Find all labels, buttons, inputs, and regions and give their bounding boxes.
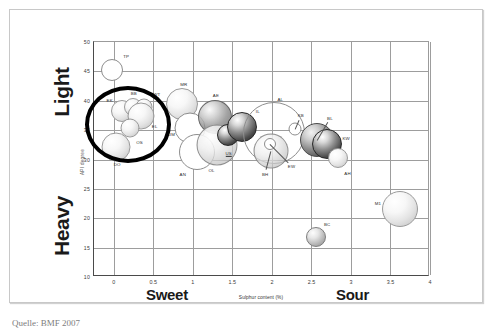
gridline-horizontal bbox=[94, 189, 428, 190]
x-tick-label: 1.5 bbox=[229, 279, 237, 285]
x-tick-label: 1 bbox=[191, 279, 194, 285]
x-tick-label: 2.5 bbox=[308, 279, 316, 285]
data-label-m1: M1 bbox=[375, 201, 381, 206]
data-label-an: AN bbox=[180, 171, 186, 176]
bubble-bc bbox=[306, 227, 326, 247]
gridline-horizontal bbox=[94, 71, 428, 72]
y-tick-label: 50 bbox=[84, 39, 90, 45]
data-label-kb: KB bbox=[298, 112, 304, 117]
data-label-al: AL bbox=[277, 97, 283, 102]
x-tick-label: 2 bbox=[270, 279, 273, 285]
gridline-vertical bbox=[430, 42, 431, 275]
y-tick-label: 45 bbox=[84, 68, 90, 74]
data-label-ae: AE bbox=[213, 93, 219, 98]
gridline-vertical bbox=[390, 42, 391, 275]
data-label-mr: MR bbox=[180, 81, 187, 86]
bubble-ah bbox=[328, 148, 348, 168]
data-label-il: IL bbox=[256, 109, 260, 114]
axis-pole-label-heavy: Heavy bbox=[50, 196, 74, 256]
gridline-vertical bbox=[351, 42, 352, 275]
gridline-horizontal bbox=[94, 218, 428, 219]
x-tick-label: 0.5 bbox=[150, 279, 158, 285]
data-label-tp: TP bbox=[123, 54, 129, 59]
y-tick-label: 30 bbox=[84, 157, 90, 163]
bubble-m1 bbox=[382, 191, 418, 227]
axis-pole-label-sweet: Sweet bbox=[146, 286, 188, 303]
data-label-kw: KW bbox=[343, 136, 350, 141]
source-caption: Quelle: BMF 2007 bbox=[12, 318, 80, 328]
data-label-us: US bbox=[225, 151, 231, 157]
bubble-tp bbox=[101, 59, 123, 81]
y-tick-label: 20 bbox=[84, 215, 90, 221]
y-tick-label: 15 bbox=[84, 245, 90, 251]
y-tick-label: 25 bbox=[84, 186, 90, 192]
data-label-bc: BC bbox=[324, 222, 330, 227]
figure-frame: Light Heavy Sweet Sour API degree Sulphu… bbox=[9, 9, 483, 303]
x-tick-label: 4 bbox=[429, 279, 432, 285]
y-tick-label: 40 bbox=[84, 98, 90, 104]
x-tick-label: 3.5 bbox=[387, 279, 395, 285]
x-tick-label: 0 bbox=[112, 279, 115, 285]
data-label-ah: AH bbox=[344, 170, 350, 175]
data-label-ew: EW bbox=[288, 164, 295, 169]
x-axis-title: Sulphur content (%) bbox=[239, 295, 283, 300]
gridline-vertical bbox=[232, 42, 233, 275]
axis-pole-label-light: Light bbox=[50, 67, 74, 116]
gridline-vertical bbox=[153, 42, 154, 275]
axis-pole-label-sour: Sour bbox=[336, 286, 369, 303]
data-label-bh: BH bbox=[262, 172, 268, 177]
gridline-horizontal bbox=[94, 248, 428, 249]
highlight-annotation-circle bbox=[85, 86, 171, 163]
data-label-bl: BL bbox=[327, 116, 333, 121]
data-label-ol: OL bbox=[208, 168, 214, 173]
y-tick-label: 10 bbox=[84, 274, 90, 280]
x-tick-label: 3 bbox=[349, 279, 352, 285]
